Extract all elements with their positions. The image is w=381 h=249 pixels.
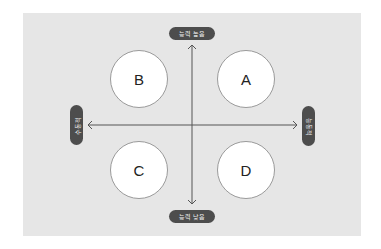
axis-label-top: 능력 높음 (169, 27, 215, 40)
quadrant-c-label: C (134, 162, 145, 179)
quadrant-a: A (217, 50, 275, 108)
quadrant-d-label: D (241, 162, 252, 179)
quadrant-a-label: A (241, 71, 251, 88)
quadrant-d: D (217, 141, 275, 199)
quadrant-b-label: B (134, 71, 144, 88)
axis-label-bottom: 능력 낮음 (169, 210, 215, 223)
quadrant-b: B (110, 50, 168, 108)
axis-label-left: 수동적 (70, 105, 83, 145)
axis-label-right: 능동적 (302, 106, 315, 146)
quadrant-c: C (110, 141, 168, 199)
